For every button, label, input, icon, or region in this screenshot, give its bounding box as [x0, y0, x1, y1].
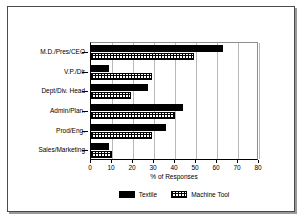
bar-machine-tool	[91, 92, 131, 99]
bar-textile	[91, 124, 166, 131]
bar-machine-tool	[91, 112, 175, 119]
bar-machine-tool	[91, 151, 112, 158]
x-axis-tick	[174, 160, 175, 163]
x-axis-tick-label: 0	[80, 164, 100, 171]
bar-machine-tool	[91, 73, 152, 80]
bar-textile	[91, 45, 223, 52]
chart-legend: TextileMachine Tool	[90, 188, 258, 200]
legend-swatch-machine-tool	[171, 191, 187, 198]
bar-group	[91, 65, 257, 81]
bar-group	[91, 84, 257, 100]
x-axis-tick-label: 30	[143, 164, 163, 171]
x-axis-tick-label: 20	[122, 164, 142, 171]
y-axis-tick	[82, 72, 88, 73]
y-axis-tick	[82, 111, 88, 112]
chart-figure: M.D./Pres/CEOV.P./DirDept/Div. HeadAdmin…	[0, 0, 304, 220]
bar-textile	[91, 143, 109, 150]
bar-group	[91, 45, 257, 61]
legend-label: Machine Tool	[191, 191, 229, 198]
x-axis-tick-label: 80	[248, 164, 268, 171]
y-axis-tick	[82, 52, 88, 53]
bar-textile	[91, 84, 148, 91]
x-axis-tick-label: 70	[227, 164, 247, 171]
y-axis-tick	[82, 150, 88, 151]
y-axis-tick-label: M.D./Pres/CEO	[0, 48, 85, 55]
gridline	[259, 43, 260, 159]
legend-swatch-textile	[119, 191, 135, 198]
x-axis-tick	[237, 160, 238, 163]
legend-entry: Machine Tool	[171, 191, 229, 198]
x-axis-tick-label: 10	[101, 164, 121, 171]
bar-group	[91, 124, 257, 140]
y-axis-tick-label: Prod/Eng.	[0, 127, 85, 134]
plot-area	[90, 42, 258, 160]
y-axis-labels: M.D./Pres/CEOV.P./DirDept/Div. HeadAdmin…	[0, 42, 88, 160]
x-axis-tick	[90, 160, 91, 163]
x-axis-title: % of Responses	[90, 173, 258, 180]
y-axis-tick-label: Dept/Div. Head	[0, 87, 85, 94]
bar-group	[91, 143, 257, 159]
legend-entry: Textile	[119, 191, 157, 198]
x-axis-tick-label: 50	[185, 164, 205, 171]
bar-group	[91, 104, 257, 120]
bar-textile	[91, 104, 183, 111]
y-axis-tick	[82, 131, 88, 132]
x-axis-tick-label: 60	[206, 164, 226, 171]
x-axis-tick	[258, 160, 259, 163]
legend-label: Textile	[139, 191, 157, 198]
y-axis-tick-label: Sales/Marketing	[0, 146, 85, 153]
bar-textile	[91, 65, 109, 72]
x-axis-tick	[132, 160, 133, 163]
bar-machine-tool	[91, 53, 194, 60]
x-axis-tick	[111, 160, 112, 163]
x-axis-tick	[195, 160, 196, 163]
y-axis-tick-label: V.P./Dir	[0, 68, 85, 75]
y-axis-tick-label: Admin/Plan.	[0, 107, 85, 114]
x-axis-tick-label: 40	[164, 164, 184, 171]
y-axis-tick	[82, 91, 88, 92]
x-axis-tick	[153, 160, 154, 163]
bar-machine-tool	[91, 132, 152, 139]
x-axis-tick	[216, 160, 217, 163]
